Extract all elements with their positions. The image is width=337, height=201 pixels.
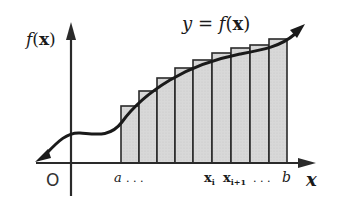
riemann-sum-diagram: f(x) y = f(x) O a . . . xi xi+1 . . . b … [0,0,337,201]
curve-left-arrow-icon [35,149,51,162]
tick-dots-left: . . . [126,172,143,185]
y-axis-label: f(x) [24,29,56,49]
origin-label: O [46,170,59,190]
x-axis-arrow-icon [298,158,316,168]
rectangle-7 [231,48,250,163]
tick-label-a: a [114,170,122,185]
x-axis-label: x [305,169,317,190]
y-axis [66,22,76,196]
riemann-rectangles [121,39,287,163]
curve-label: y = f(x) [181,13,250,34]
rectangle-9 [269,39,287,163]
y-axis-arrow-icon [66,22,76,40]
rectangle-6 [212,53,231,163]
rectangle-8 [250,45,269,163]
rectangle-4 [175,68,193,163]
rectangle-5 [193,60,212,163]
tick-label-xi: xi [204,170,215,187]
tick-dots-right: . . . [253,172,270,185]
rectangle-3 [157,78,175,163]
rectangle-1 [121,106,139,163]
tick-label-xi-plus-1: xi+1 [223,170,246,187]
tick-label-b: b [282,169,291,185]
